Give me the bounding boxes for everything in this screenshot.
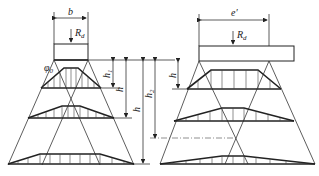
svg-text:h: h (114, 87, 125, 92)
svg-text:h: h (167, 73, 178, 78)
left-footing-figure: b Rd φ0 (8, 6, 175, 165)
left-footing-block (54, 44, 88, 60)
pressure-distribution-diagram: b Rd φ0 (0, 0, 319, 176)
right-footing-slab (199, 46, 294, 61)
svg-text:Rd: Rd (236, 29, 247, 42)
width-label-e: e′ (231, 7, 238, 18)
svg-text:h1: h1 (101, 70, 114, 79)
svg-text:h2: h2 (143, 89, 156, 98)
width-label-b: b (68, 6, 73, 17)
svg-text:h: h (131, 107, 142, 112)
right-footing-figure: e′ Rd (150, 7, 315, 164)
svg-text:Rd: Rd (74, 27, 85, 40)
